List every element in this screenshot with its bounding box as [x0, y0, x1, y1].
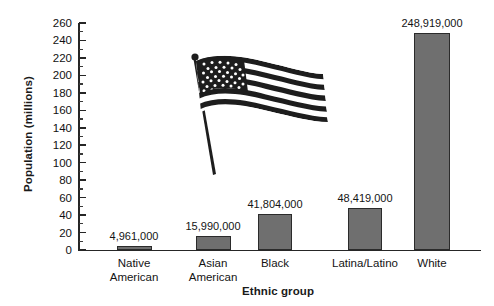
y-tick-label-260: 260	[32, 17, 72, 29]
y-minor-tick	[79, 188, 83, 189]
y-tick-label-140: 140	[32, 122, 72, 134]
y-tick-180	[79, 92, 86, 94]
x-axis-title: Ethnic group	[78, 285, 478, 297]
y-tick-60	[79, 197, 86, 199]
y-tick-label-80: 80	[32, 174, 72, 186]
y-tick-label-240: 240	[32, 34, 72, 46]
y-tick-label-40: 40	[32, 209, 72, 221]
y-tick-100	[79, 162, 86, 164]
bar-asian-american	[196, 236, 231, 250]
bar-value-label: 248,919,000	[401, 17, 462, 29]
x-tick-label-asian-american: AsianAmerican	[189, 256, 238, 284]
y-tick-label-60: 60	[32, 192, 72, 204]
y-tick-label-120: 120	[32, 139, 72, 151]
y-minor-tick	[79, 206, 83, 207]
y-minor-tick	[79, 153, 83, 154]
bar-white	[414, 33, 450, 250]
y-minor-tick	[79, 118, 83, 119]
y-tick-20	[79, 232, 86, 234]
y-tick-200	[79, 75, 86, 77]
x-tick-label-line: Latina/Latino	[332, 256, 398, 270]
y-minor-tick	[79, 136, 83, 137]
x-tick-label-line: American	[110, 270, 159, 284]
y-minor-tick	[79, 83, 83, 84]
bar-native-american	[117, 246, 152, 250]
y-minor-tick	[79, 241, 83, 242]
y-tick-label-200: 200	[32, 69, 72, 81]
y-tick-label-100: 100	[32, 157, 72, 169]
bar-latina-latino	[348, 208, 382, 250]
y-tick-label-20: 20	[32, 227, 72, 239]
bar-value-label: 48,419,000	[337, 192, 392, 204]
y-tick-label-0: 0	[32, 244, 72, 256]
us-flag-illustration	[182, 46, 332, 181]
y-minor-tick	[79, 31, 83, 32]
x-tick-label-line: Native	[110, 256, 159, 270]
bar-value-label: 15,990,000	[185, 220, 240, 232]
bar-black	[258, 214, 292, 250]
y-minor-tick	[79, 49, 83, 50]
x-tick-label-line: White	[417, 256, 446, 270]
y-minor-tick	[79, 223, 83, 224]
y-tick-140	[79, 127, 86, 129]
y-tick-220	[79, 57, 86, 59]
y-tick-label-220: 220	[32, 52, 72, 64]
y-minor-tick	[79, 101, 83, 102]
y-tick-260	[79, 22, 86, 24]
y-minor-tick	[79, 171, 83, 172]
x-tick-label-white: White	[417, 256, 446, 270]
y-tick-label-160: 160	[32, 104, 72, 116]
y-tick-120	[79, 144, 86, 146]
x-tick-label-black: Black	[261, 256, 289, 270]
y-minor-tick	[79, 66, 83, 67]
x-tick-label-line: American	[189, 270, 238, 284]
y-tick-label-180: 180	[32, 87, 72, 99]
x-tick-label-line: Black	[261, 256, 289, 270]
y-tick-80	[79, 179, 86, 181]
x-tick-label-latina-latino: Latina/Latino	[332, 256, 398, 270]
x-tick-label-native-american: NativeAmerican	[110, 256, 159, 284]
x-tick-label-line: Asian	[189, 256, 238, 270]
bar-chart: Population (millions) Ethnic group 02040…	[0, 0, 494, 306]
y-tick-40	[79, 214, 86, 216]
y-tick-240	[79, 40, 86, 42]
bar-value-label: 41,804,000	[247, 198, 302, 210]
bar-value-label: 4,961,000	[110, 230, 159, 242]
y-tick-160	[79, 110, 86, 112]
y-tick-0	[79, 249, 86, 251]
